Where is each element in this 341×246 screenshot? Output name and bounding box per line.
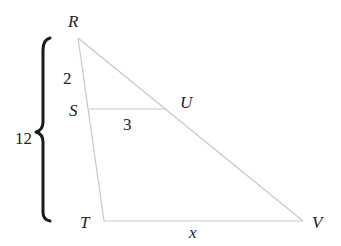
segment-RT — [78, 38, 104, 221]
measure-RS: 2 — [63, 69, 72, 88]
vertex-label-T: T — [80, 213, 91, 232]
segment-RV — [78, 38, 303, 221]
vertex-label-V: V — [312, 213, 325, 232]
measure-SU: 3 — [123, 115, 132, 134]
similar-triangles-diagram: R S U T V 2 3 12 x — [0, 0, 341, 246]
measure-TV: x — [188, 223, 197, 242]
vertex-label-U: U — [180, 93, 194, 112]
measure-RT: 12 — [15, 129, 32, 148]
vertex-label-R: R — [67, 12, 79, 31]
vertex-label-S: S — [69, 101, 78, 120]
brace-RT — [36, 38, 50, 221]
